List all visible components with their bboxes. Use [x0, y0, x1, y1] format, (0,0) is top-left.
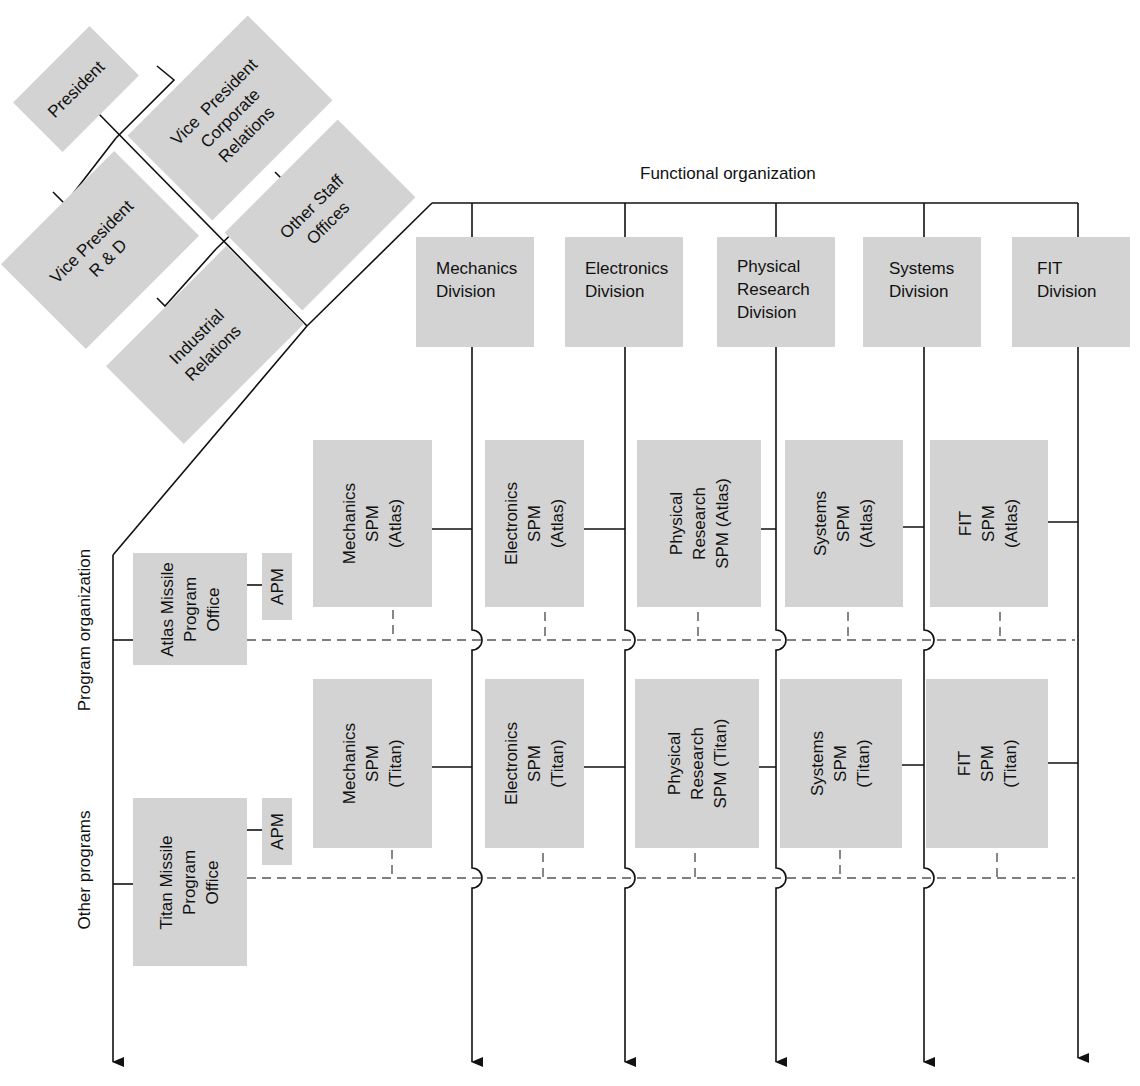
functional-organization-heading: Functional organization	[640, 164, 816, 184]
industrial-relations-label: Industrial Relations	[164, 304, 247, 387]
spm-fit-atlas: FIT SPM (Atlas)	[930, 440, 1048, 607]
division-electronics-label: Electronics Division	[585, 257, 668, 303]
other-programs-heading: Other programs	[75, 810, 95, 930]
division-mechanics-label: Mechanics Division	[436, 257, 517, 303]
division-mechanics: Mechanics Division	[416, 237, 534, 347]
program-organization-heading: Program organization	[75, 545, 95, 715]
titan-program-office: Titan Missile Program Office	[133, 798, 247, 966]
spm-electronics-titan: Electronics SPM (Titan)	[485, 679, 584, 848]
vp-rd-label: Vice President R & D	[45, 195, 155, 305]
atlas-program-office: Atlas Missile Program Office	[133, 553, 247, 665]
division-fit: FIT Division	[1012, 237, 1130, 347]
titan-program-office-label: Titan Missile Program Office	[156, 835, 225, 929]
spm-systems-titan: Systems SPM (Titan)	[780, 679, 902, 848]
spm-mechanics-atlas-label: Mechanics SPM (Atlas)	[338, 483, 407, 564]
spm-physical-research-atlas: Physical Research SPM (Atlas)	[637, 440, 761, 607]
titan-apm: APM	[262, 798, 292, 865]
titan-apm-label: APM	[266, 813, 289, 850]
spm-mechanics-titan: Mechanics SPM (Titan)	[313, 679, 432, 848]
spm-systems-atlas: Systems SPM (Atlas)	[785, 440, 903, 607]
spm-electronics-atlas-label: Electronics SPM (Atlas)	[500, 482, 569, 565]
spm-fit-titan: FIT SPM (Titan)	[926, 679, 1048, 848]
spm-mechanics-titan-label: Mechanics SPM (Titan)	[338, 723, 407, 804]
division-systems-label: Systems Division	[889, 257, 954, 303]
atlas-apm: APM	[262, 553, 292, 620]
spm-fit-titan-label: FIT SPM (Titan)	[953, 739, 1022, 788]
spm-physical-research-titan-label: Physical Research SPM (Titan)	[662, 718, 731, 808]
division-physical-research: Physical Research Division	[717, 237, 835, 347]
spm-systems-titan-label: Systems SPM (Titan)	[807, 731, 876, 796]
spm-electronics-atlas: Electronics SPM (Atlas)	[485, 440, 584, 607]
division-systems: Systems Division	[863, 237, 981, 347]
division-fit-label: FIT Division	[1037, 257, 1097, 303]
spm-systems-atlas-label: Systems SPM (Atlas)	[810, 491, 879, 556]
spm-electronics-titan-label: Electronics SPM (Titan)	[500, 722, 569, 805]
spm-fit-atlas-label: FIT SPM (Atlas)	[955, 499, 1024, 548]
atlas-apm-label: APM	[266, 568, 289, 605]
division-physical-research-label: Physical Research Division	[737, 255, 810, 324]
spm-mechanics-atlas: Mechanics SPM (Atlas)	[313, 440, 432, 607]
spm-physical-research-titan: Physical Research SPM (Titan)	[635, 679, 759, 848]
atlas-program-office-label: Atlas Missile Program Office	[156, 562, 225, 656]
other-staff-offices-label: Other Staff Offices	[275, 170, 365, 260]
spm-physical-research-atlas-label: Physical Research SPM (Atlas)	[665, 478, 734, 569]
division-electronics: Electronics Division	[565, 237, 683, 347]
president-label: President	[42, 55, 109, 122]
